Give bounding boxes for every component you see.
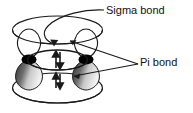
sigma-bond-label: Sigma bond — [106, 5, 165, 16]
sigma-electron-pair — [53, 51, 64, 69]
left-lobe-upper — [17, 29, 40, 58]
pi-bond-label: Pi bond — [140, 57, 177, 68]
figure-canvas: Sigma bond Pi bond — [0, 0, 193, 113]
pi-electron-pair — [53, 73, 63, 89]
